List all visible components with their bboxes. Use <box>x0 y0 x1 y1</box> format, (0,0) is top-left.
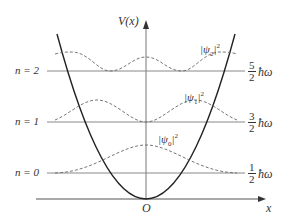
psi1-label: |ψ1|2 <box>184 90 204 106</box>
x-axis-label: x <box>266 201 271 216</box>
psi0-label: |ψ0|2 <box>158 132 178 148</box>
energy-fraction-n1: 32 <box>248 111 256 134</box>
fraction-denominator: 2 <box>248 123 256 134</box>
energy-unit-n2: ħω <box>258 65 272 80</box>
y-axis-arrow-icon <box>143 20 149 29</box>
psi-symbol: ψ <box>187 91 194 103</box>
psi2-label: |ψ2|2 <box>200 42 220 58</box>
level-label-n2: n = 2 <box>15 64 39 76</box>
energy-unit-n0: ħω <box>258 167 272 182</box>
psi-subscript: 2 <box>210 50 214 58</box>
energy-unit-n1: ħω <box>258 116 272 131</box>
energy-fraction-n2: 52 <box>248 60 256 83</box>
y-axis-label: V(x) <box>118 14 139 29</box>
x-axis-arrow-icon <box>258 196 266 202</box>
level-label-n1: n = 1 <box>15 115 39 127</box>
fraction-denominator: 2 <box>248 72 256 83</box>
psi-subscript: 1 <box>194 98 198 106</box>
diagram-canvas <box>0 0 284 224</box>
psi-symbol: ψ <box>203 43 210 55</box>
level-label-n0: n = 0 <box>15 166 39 178</box>
origin-label: O <box>142 201 151 216</box>
psi-superscript: 2 <box>174 132 178 140</box>
psi-subscript: 0 <box>168 140 172 148</box>
fraction-denominator: 2 <box>248 174 256 185</box>
psi-superscript: 2 <box>216 42 220 50</box>
energy-fraction-n0: 12 <box>248 162 256 185</box>
psi-superscript: 2 <box>200 90 204 98</box>
psi-symbol: ψ <box>161 133 168 145</box>
